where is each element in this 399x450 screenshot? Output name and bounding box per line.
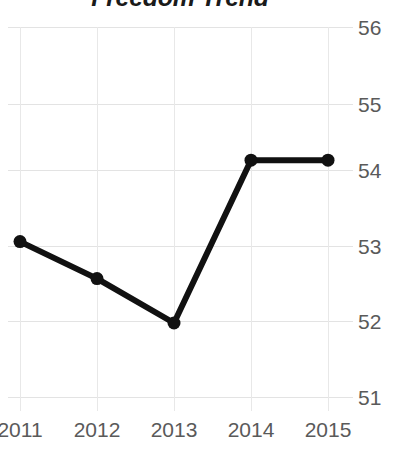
data-point-marker <box>168 317 181 330</box>
y-axis-tick-label: 55 <box>358 94 398 115</box>
data-point-marker <box>14 235 27 248</box>
y-axis-tick-label: 52 <box>358 311 398 332</box>
plot-area <box>0 0 399 450</box>
y-axis-tick-label: 54 <box>358 160 398 181</box>
data-point-marker <box>322 154 335 167</box>
series-polyline <box>20 160 328 323</box>
y-axis-tick-label: 56 <box>358 17 398 38</box>
data-point-marker <box>91 272 104 285</box>
y-axis-tick-label: 53 <box>358 236 398 257</box>
x-axis-tick-label: 2015 <box>292 419 364 440</box>
series-markers <box>14 154 335 330</box>
y-axis-tick-label: 51 <box>358 387 398 408</box>
x-axis-tick-label: 2014 <box>215 419 287 440</box>
x-axis-tick-label: 2012 <box>61 419 133 440</box>
x-axis-tick-label: 2013 <box>138 419 210 440</box>
data-series-line <box>0 0 399 450</box>
data-point-marker <box>245 154 258 167</box>
x-axis-tick-label: 2011 <box>0 419 56 440</box>
chart-figure: Freedom Trend 56 55 54 53 52 51 2011 201… <box>0 0 399 450</box>
